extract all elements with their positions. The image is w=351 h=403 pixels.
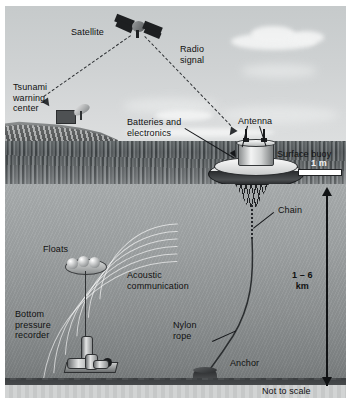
bpr-arm — [93, 360, 109, 369]
label-floats: Floats — [43, 244, 68, 255]
depth-arrow-shaft — [326, 194, 328, 386]
float-tether — [85, 271, 86, 343]
label-bottom-pressure-recorder: Bottom pressure recorder — [15, 309, 51, 341]
float-ball-2 — [78, 256, 89, 267]
diagram-scene: Satellite Radio signal Tsunami warning c… — [5, 6, 346, 398]
depth-arrow-head-bottom — [322, 377, 332, 386]
label-depth-range: 1 – 6 km — [292, 270, 313, 291]
label-acoustic-communication: Acoustic communication — [127, 270, 189, 291]
tsunami-buoy-diagram: Satellite Radio signal Tsunami warning c… — [0, 0, 351, 403]
float-ball-1 — [67, 258, 78, 269]
float-ball-3 — [89, 257, 100, 268]
label-not-to-scale: Not to scale — [262, 386, 311, 397]
bottom-pressure-recorder — [63, 336, 119, 376]
